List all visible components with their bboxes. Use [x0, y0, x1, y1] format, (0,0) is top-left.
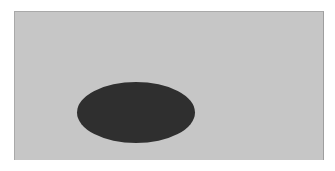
- dark-ellipse-shape: [77, 82, 195, 143]
- image-canvas: [0, 0, 335, 171]
